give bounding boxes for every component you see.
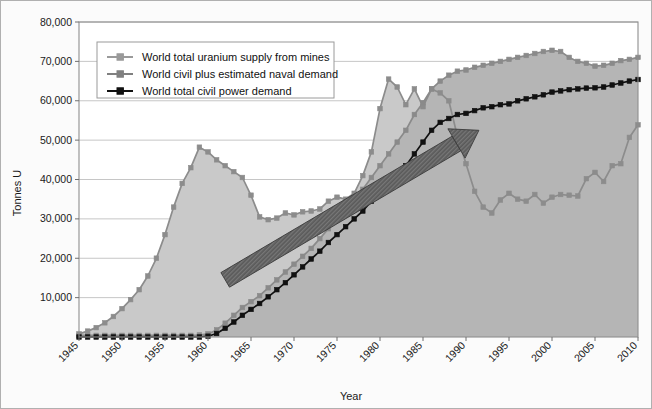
series-marker [472, 65, 477, 70]
series-marker [515, 197, 520, 202]
legend-entry-label: World total uranium supply from mines [142, 51, 330, 63]
series-marker [171, 205, 176, 210]
x-tick-label: 2010 [614, 339, 639, 364]
series-marker [232, 169, 237, 174]
series-marker [232, 313, 237, 318]
series-marker [223, 326, 228, 331]
series-marker [137, 287, 142, 292]
series-marker [266, 217, 271, 222]
series-marker [447, 99, 452, 104]
series-marker [249, 299, 254, 304]
series-marker [386, 152, 391, 157]
x-tick-label: 2000 [528, 339, 553, 364]
series-marker [369, 175, 374, 180]
series-marker [593, 170, 598, 175]
series-marker [223, 163, 228, 168]
series-marker [214, 158, 219, 163]
series-marker [541, 93, 546, 98]
series-marker [550, 48, 555, 53]
series-marker [447, 116, 452, 121]
series-marker [189, 165, 194, 170]
x-tick-label: 1995 [485, 339, 510, 364]
x-axis-tick-labels: 1945195019551960196519701975198019851990… [55, 339, 639, 364]
series-marker [300, 254, 305, 259]
series-marker [498, 102, 503, 107]
series-marker [404, 102, 409, 107]
series-marker [619, 161, 624, 166]
series-marker [257, 293, 262, 298]
series-marker [352, 217, 357, 222]
series-marker [343, 224, 348, 229]
series-marker [154, 256, 159, 261]
series-marker [481, 205, 486, 210]
y-tick-label: 50,000 [40, 134, 72, 146]
series-marker [300, 210, 305, 215]
series-marker [395, 85, 400, 90]
series-marker [146, 274, 151, 279]
series-marker [326, 199, 331, 204]
series-marker [283, 280, 288, 285]
series-marker [240, 175, 245, 180]
series-marker [85, 329, 90, 334]
series-marker [610, 83, 615, 88]
y-tick-label: 20,000 [40, 252, 72, 264]
series-marker [292, 213, 297, 218]
series-marker [412, 112, 417, 117]
series-marker [275, 287, 280, 292]
series-marker [128, 297, 133, 302]
series-marker [541, 49, 546, 54]
series-marker [558, 192, 563, 197]
series-marker [464, 68, 469, 73]
series-marker [533, 51, 538, 56]
series-marker [619, 81, 624, 86]
uranium-supply-demand-chart: 10,00020,00030,00040,00050,00060,00070,0… [1, 1, 652, 409]
series-marker [421, 140, 426, 145]
series-marker [455, 69, 460, 74]
x-tick-label: 1970 [270, 339, 295, 364]
series-marker [386, 77, 391, 82]
series-marker [464, 111, 469, 116]
series-marker [455, 112, 460, 117]
series-marker [533, 192, 538, 197]
series-marker [335, 232, 340, 237]
series-marker [533, 95, 538, 100]
series-marker [120, 306, 125, 311]
series-marker [567, 55, 572, 60]
legend-marker-swatch [117, 71, 123, 77]
series-marker [429, 87, 434, 92]
series-marker [541, 201, 546, 206]
series-marker [249, 307, 254, 312]
series-marker [601, 85, 606, 90]
series-marker [378, 163, 383, 168]
series-marker [283, 270, 288, 275]
series-marker [576, 87, 581, 92]
x-tick-label: 2005 [571, 339, 596, 364]
series-marker [576, 59, 581, 64]
series-marker [481, 106, 486, 111]
series-marker [429, 128, 434, 133]
x-tick-label: 1985 [399, 339, 424, 364]
series-marker [309, 257, 314, 262]
series-marker [318, 249, 323, 254]
series-marker [438, 79, 443, 84]
y-tick-label: 70,000 [40, 55, 72, 67]
series-marker [249, 193, 254, 198]
series-marker [292, 273, 297, 278]
series-marker [361, 173, 366, 178]
series-marker [584, 86, 589, 91]
series-marker [515, 55, 520, 60]
series-marker [593, 64, 598, 69]
series-marker [472, 108, 477, 113]
y-tick-label: 10,000 [40, 291, 72, 303]
series-marker [94, 325, 99, 330]
series-marker [309, 246, 314, 251]
series-marker [292, 262, 297, 267]
series-marker [438, 120, 443, 125]
series-marker [214, 331, 219, 336]
x-tick-label: 1975 [313, 339, 338, 364]
x-tick-label: 1955 [141, 339, 166, 364]
series-marker [524, 199, 529, 204]
series-marker [601, 179, 606, 184]
series-marker [447, 73, 452, 78]
series-marker [627, 79, 632, 84]
